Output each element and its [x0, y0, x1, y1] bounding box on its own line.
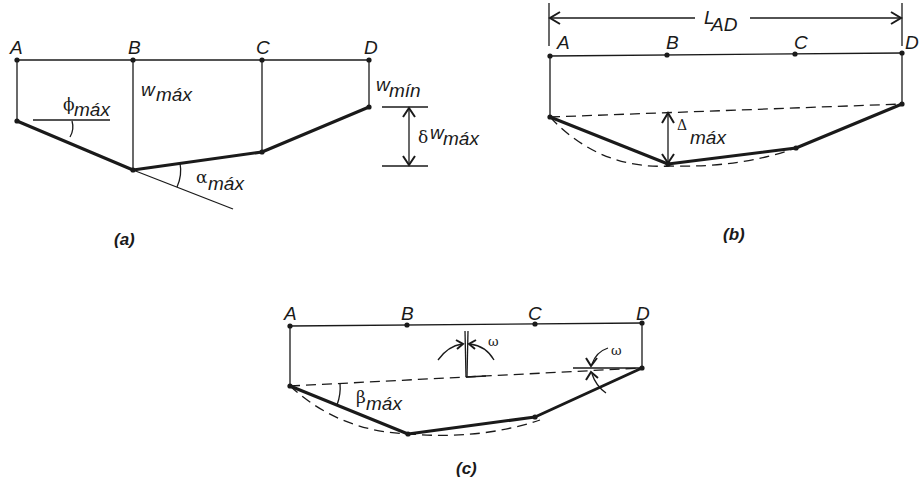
beta-symbol: β	[356, 387, 366, 407]
node-b-A-top	[547, 53, 552, 58]
omega-foot	[466, 376, 486, 377]
node-b-A-settled	[547, 114, 552, 119]
label-a-B: B	[128, 37, 141, 58]
caption-b: (b)	[723, 225, 745, 244]
omega-vertical-1	[465, 331, 466, 377]
dw-subscript: máx	[443, 128, 480, 149]
node-c-B-settled	[405, 431, 410, 436]
node-c-D-settled	[639, 365, 644, 370]
omega-label-1: ω	[488, 334, 499, 349]
node-b-D-top	[899, 50, 904, 55]
caption-c: (c)	[456, 459, 477, 478]
label-a-D: D	[364, 37, 378, 58]
node-c-C-settled	[532, 414, 537, 419]
settlement-diagram: A B C D ϕ máx w máx w mín δ w máx α máx …	[0, 0, 924, 497]
node-a-A-top	[14, 57, 19, 62]
label-a-A: A	[9, 37, 23, 58]
omega-vertical-2	[467, 331, 468, 377]
node-b-C-settled	[793, 145, 798, 150]
caption-a: (a)	[114, 230, 135, 249]
phi-angle-arc	[70, 121, 73, 137]
settled-profile-c	[290, 368, 642, 434]
chord-line-b	[550, 104, 902, 117]
alpha-subscript: máx	[208, 173, 245, 194]
alpha-symbol: α	[196, 167, 208, 187]
node-b-B-settled	[665, 161, 670, 166]
panel-a: A B C D ϕ máx w máx w mín δ w máx α máx …	[9, 37, 480, 249]
omega-arc-left	[438, 344, 462, 360]
label-c-C: C	[528, 303, 542, 324]
label-a-C: C	[256, 37, 270, 58]
node-c-A-settled	[287, 383, 292, 388]
node-b-D-settled	[899, 101, 904, 106]
node-a-D-settled	[366, 104, 371, 109]
delta-symbol: δ	[418, 127, 428, 147]
node-a-C-top	[259, 57, 264, 62]
reference-line-b	[550, 53, 902, 56]
wmin-subscript: mín	[389, 80, 421, 101]
label-b-C: C	[794, 32, 808, 53]
node-b-B-top	[664, 52, 669, 57]
delta-max-subscript: máx	[690, 127, 727, 148]
wmax-symbol: w	[141, 79, 156, 100]
node-a-B-settled	[130, 167, 135, 172]
settled-profile-a	[17, 107, 369, 170]
reference-line-c	[290, 323, 642, 326]
deflection-curve-b	[550, 117, 796, 166]
node-a-A-settled	[14, 118, 19, 123]
label-c-A: A	[283, 303, 297, 324]
phi-subscript: máx	[74, 99, 111, 120]
deflection-curve-c	[290, 386, 540, 435]
label-b-D: D	[905, 32, 919, 53]
beta-subscript: máx	[366, 393, 403, 414]
node-a-C-settled	[259, 149, 264, 154]
omega-label-2: ω	[611, 343, 622, 358]
beta-angle-arc	[337, 383, 340, 405]
omega-d-arrow-bottom	[586, 372, 598, 380]
omega-d-arrow-top	[586, 358, 597, 366]
node-a-B-top	[130, 57, 135, 62]
label-b-B: B	[666, 32, 679, 53]
delta-max-symbol: Δ	[677, 117, 687, 133]
wmax-subscript: máx	[156, 84, 193, 105]
label-c-B: B	[401, 303, 414, 324]
panel-b: L AD A B C D Δ máx (b)	[547, 3, 919, 244]
label-c-D: D	[636, 303, 650, 324]
node-c-A-top	[287, 323, 292, 328]
node-a-D-top	[366, 57, 371, 62]
lad-subscript: AD	[710, 14, 738, 35]
phi-symbol: ϕ	[63, 94, 75, 114]
alpha-angle-arc	[177, 163, 181, 187]
label-b-A: A	[556, 32, 570, 53]
panel-c: A B C D ω ω β máx (c)	[283, 303, 650, 478]
